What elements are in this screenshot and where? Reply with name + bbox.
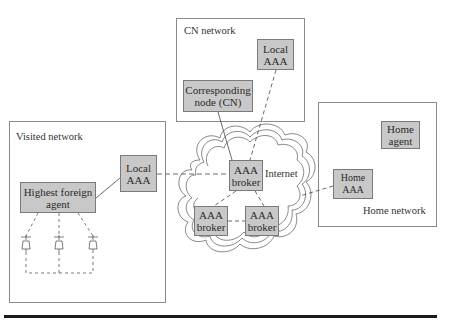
cn-aaa-to-broker-line <box>250 70 276 160</box>
aaa-broker-right: AAA broker <box>245 206 279 236</box>
access-point-icon <box>54 235 64 252</box>
diagram-links <box>0 0 455 321</box>
home-aaa-to-cloud-line <box>300 186 333 196</box>
aaa-broker-main: AAA broker <box>229 160 263 191</box>
access-point-icon <box>88 235 98 252</box>
highest-foreign-agent: Highest foreign agent <box>20 182 96 213</box>
home-agent: Home agent <box>381 121 420 149</box>
home-aaa: Home AAA <box>333 169 373 199</box>
internet-label: Internet <box>265 168 298 179</box>
aaa-broker-left: AAA broker <box>194 206 228 236</box>
visited-local-aaa: Local AAA <box>120 155 157 192</box>
hfa-to-local-aaa-line <box>96 178 120 198</box>
corresponding-node: Corresponding node (CN) <box>183 80 253 112</box>
cn-local-aaa: Local AAA <box>257 39 294 70</box>
access-point-icon <box>21 235 31 252</box>
bottom-rule <box>4 315 437 318</box>
